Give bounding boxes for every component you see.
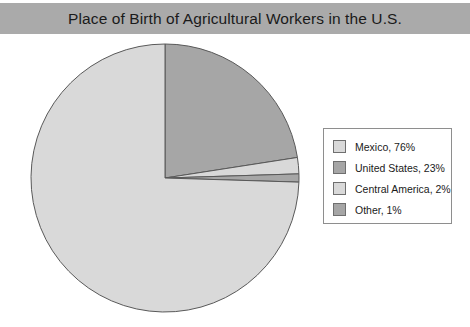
legend-item[interactable]: Mexico, 76% xyxy=(333,136,451,157)
page-title: Place of Birth of Agricultural Workers i… xyxy=(68,10,402,28)
legend-item-label: Central America, 2% xyxy=(355,183,451,195)
legend-item-label: United States, 23% xyxy=(355,162,445,174)
legend-item[interactable]: Central America, 2% xyxy=(333,178,451,199)
chart-title-band: Place of Birth of Agricultural Workers i… xyxy=(0,3,470,34)
legend-item[interactable]: Other, 1% xyxy=(333,199,451,220)
legend-item-label: Mexico, 76% xyxy=(355,141,415,153)
legend-item[interactable]: United States, 23% xyxy=(333,157,451,178)
pie-slice[interactable] xyxy=(165,44,297,178)
chart-figure: Place of Birth of Agricultural Workers i… xyxy=(0,0,470,327)
legend-swatch-icon xyxy=(333,161,346,174)
legend-swatch-icon xyxy=(333,140,346,153)
legend-item-label: Other, 1% xyxy=(355,204,402,216)
chart-legend: Mexico, 76% United States, 23% Central A… xyxy=(323,128,452,224)
legend-swatch-icon xyxy=(333,182,346,195)
legend-swatch-icon xyxy=(333,203,346,216)
